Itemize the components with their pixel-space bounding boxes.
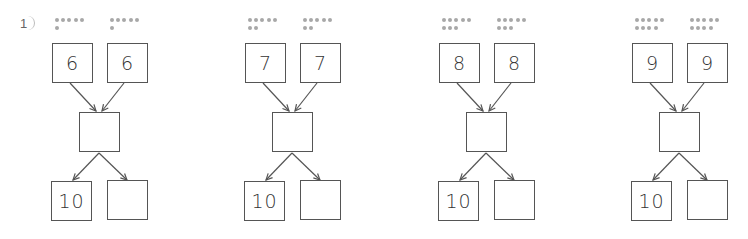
- number-bond-problem-4: 9 9 10: [632, 0, 742, 239]
- counting-dot: [248, 18, 252, 22]
- counting-dot: [55, 18, 59, 22]
- split-rest-answer-box[interactable]: [300, 180, 341, 220]
- counting-dot: [80, 18, 84, 22]
- counting-dot: [303, 18, 307, 22]
- counting-dot: [497, 18, 501, 22]
- split-rest-answer-box[interactable]: [494, 180, 535, 220]
- addend-b-box: 6: [107, 43, 148, 83]
- split-rest-answer-box[interactable]: [687, 180, 728, 220]
- counting-dot: [709, 18, 713, 22]
- counting-dot: [467, 18, 471, 22]
- question-number: 1: [20, 16, 35, 31]
- split-ten-box: 10: [438, 181, 479, 221]
- counting-dot: [273, 18, 277, 22]
- counting-dot: [709, 26, 713, 30]
- question-number-paren: [28, 16, 35, 30]
- counting-dot: [715, 18, 719, 22]
- counting-dot: [654, 26, 658, 30]
- addend-b-box: 8: [494, 43, 535, 83]
- counting-dot: [110, 26, 114, 30]
- sum-answer-box[interactable]: [79, 112, 120, 152]
- counting-dot: [55, 26, 59, 30]
- counting-dot: [248, 26, 252, 30]
- question-number-label: 1: [20, 16, 27, 31]
- counting-dot: [303, 26, 307, 30]
- counting-dot: [461, 18, 465, 22]
- split-rest-answer-box[interactable]: [107, 180, 148, 220]
- sum-answer-box[interactable]: [659, 112, 700, 152]
- sum-answer-box[interactable]: [272, 112, 313, 152]
- split-ten-box: 10: [51, 181, 92, 221]
- counting-dot: [660, 18, 664, 22]
- counting-dot: [635, 26, 639, 30]
- counting-dot: [110, 18, 114, 22]
- number-bond-problem-1: 6 6 10: [52, 0, 162, 239]
- counting-dot: [442, 18, 446, 22]
- split-ten-box: 10: [244, 181, 285, 221]
- sum-answer-box[interactable]: [466, 112, 507, 152]
- split-ten-box: 10: [631, 181, 672, 221]
- counting-dot: [635, 18, 639, 22]
- number-bond-problem-3: 8 8 10: [439, 0, 549, 239]
- counting-dot: [328, 18, 332, 22]
- counting-dot: [690, 18, 694, 22]
- counting-dot: [497, 26, 501, 30]
- counting-dot: [267, 18, 271, 22]
- number-bond-problem-2: 7 7 10: [245, 0, 355, 239]
- addend-a-box: 9: [632, 43, 673, 83]
- counting-dot: [129, 18, 133, 22]
- addend-a-box: 6: [52, 43, 93, 83]
- counting-dot: [135, 18, 139, 22]
- addend-a-box: 7: [245, 43, 286, 83]
- counting-dot: [74, 18, 78, 22]
- counting-dot: [690, 26, 694, 30]
- counting-dot: [654, 18, 658, 22]
- counting-dot: [522, 18, 526, 22]
- addend-b-box: 7: [300, 43, 341, 83]
- addend-a-box: 8: [439, 43, 480, 83]
- counting-dot: [516, 18, 520, 22]
- addend-b-box: 9: [687, 43, 728, 83]
- counting-dot: [442, 26, 446, 30]
- counting-dot: [322, 18, 326, 22]
